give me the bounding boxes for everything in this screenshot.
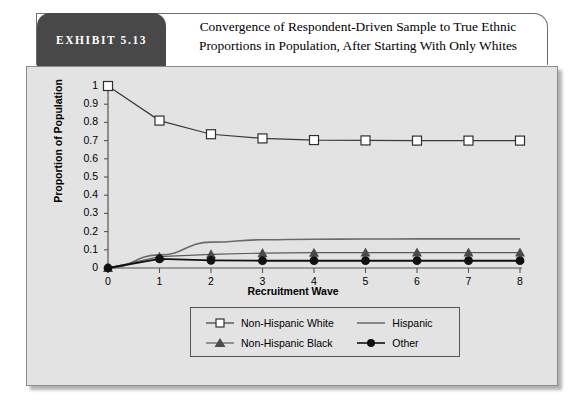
y-axis-tick-label: 0.9 [68,97,98,109]
legend-label: Other [392,337,418,349]
y-axis-tick-label: 0 [68,261,98,273]
y-axis-tick-label: 0.5 [68,170,98,182]
exhibit-badge: EXHIBIT 5.13 [37,13,166,66]
plain-line-marker-icon [356,317,386,329]
open-square-marker-icon [205,317,235,329]
exhibit-title-line-1: Convergence of Respondent-Driven Sample … [174,18,542,37]
legend-row: Non-Hispanic Black Other [191,333,459,353]
y-axis-title: Proportion of Population [52,76,64,206]
exhibit-header: EXHIBIT 5.13 Convergence of Respondent-D… [36,13,548,65]
y-axis-tick-label: 0.1 [68,243,98,255]
y-axis-tick-label: 0.2 [68,225,98,237]
legend-label: Non-Hispanic Black [241,337,333,349]
y-axis-tick-label: 0.7 [68,134,98,146]
legend-row: Non-Hispanic White Hispanic [191,313,459,333]
y-axis-tick-label: 1 [68,79,98,91]
exhibit-badge-label: EXHIBIT 5.13 [56,34,147,46]
legend-item-non-hispanic-black: Non-Hispanic Black [191,337,354,349]
legend-item-non-hispanic-white: Non-Hispanic White [191,317,354,329]
y-axis-tick-label: 0.6 [68,152,98,164]
y-axis-tick-label: 0.8 [68,115,98,127]
chart-panel: 00.10.20.30.40.50.60.70.80.91012345678 P… [26,66,558,386]
filled-triangle-marker-icon [205,337,235,349]
filled-circle-marker-icon [356,337,386,349]
chart-legend: Non-Hispanic White Hispanic [190,307,460,357]
legend-item-other: Other [354,337,459,349]
legend-item-hispanic: Hispanic [354,317,459,329]
legend-label: Hispanic [392,317,432,329]
exhibit-title-line-2: Proportions in Population, After Startin… [174,37,542,56]
y-axis-tick-label: 0.4 [68,188,98,200]
y-axis-tick-label: 0.3 [68,206,98,218]
exhibit-title: Convergence of Respondent-Driven Sample … [174,18,542,55]
x-axis-title: Recruitment Wave [27,285,559,297]
legend-label: Non-Hispanic White [241,317,334,329]
